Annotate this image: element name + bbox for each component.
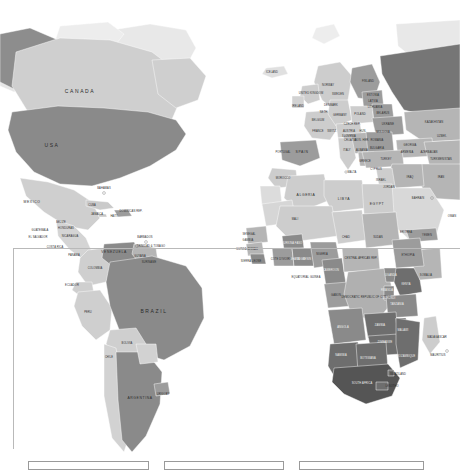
label-el-salvador: EL SALVADOR (29, 235, 48, 239)
label-burundi: BURUNDI (383, 296, 396, 300)
label-lesotho: LESOTHO (385, 384, 398, 388)
label-algeria: ALGERIA (297, 193, 316, 197)
label-cuba: CUBA (88, 203, 96, 207)
label-slovenia: SLOVENIA (342, 134, 356, 138)
label-libya: LIBYA (338, 197, 350, 201)
label-armenia: ARMENIA (401, 150, 414, 154)
label-south-africa: SOUTH AFRICA (352, 381, 373, 385)
label-senegal: SENEGAL (242, 232, 256, 236)
region-chad (332, 210, 366, 244)
label-guyana: GUYANA (134, 254, 146, 258)
label-latvia: LATVIA (368, 99, 378, 103)
label-trinidad-tobago: TRINIDAD & TOBAGO (137, 244, 165, 248)
label-nicaragua: NICARAGUA (62, 234, 79, 238)
label-botswana: BOTSWANA (360, 356, 376, 360)
label-moldova: MOLDOVA (376, 130, 390, 134)
label-barbados: BARBADOS (137, 235, 153, 239)
legend-box-2[interactable] (164, 461, 284, 470)
label-mozambique: MOZAMBIQUE (397, 354, 416, 358)
label-iraq: IRAQ (407, 175, 414, 179)
label-bosnia-herzegovina: BOS. HER. (355, 138, 369, 142)
label-hungary: HUN. (360, 129, 367, 133)
label-ethiopia: ETHIOPIA (401, 253, 414, 257)
label-uzbekistan: UZBEK. (437, 134, 447, 138)
label-azerbaijan: AZERBAIJAN (420, 150, 437, 154)
label-switzerland: SWITZ. (327, 129, 337, 133)
legend-box-1[interactable] (28, 461, 149, 470)
label-haiti: HAITI (110, 214, 117, 218)
label-uruguay: URIGUAY (157, 392, 170, 396)
label-austria: AUSTRIA (343, 129, 355, 133)
label-central-african-rep: CENTRAL AFRICAN REP. (345, 256, 378, 260)
label-sudan: SUDAN (373, 235, 383, 239)
label-belize: BELIZE (56, 220, 66, 224)
label-jamaica: JAMAICA (91, 212, 103, 216)
label-yemen: YEMEN (422, 233, 432, 237)
label-colombia: COLOMBIA (88, 266, 103, 270)
label-norway: NORWAY (322, 83, 334, 87)
label-egypt: EGYPT (370, 202, 385, 206)
label-gambia: GAMBIA (243, 238, 254, 242)
label-bulgaria: BULGARIA (370, 146, 384, 150)
label-albania: ALBANIA (356, 148, 368, 152)
label-spain: SPAIN (296, 150, 309, 154)
region-cameroon (322, 258, 346, 286)
label-iceland: ICELAND (266, 70, 278, 74)
label-cote-divoire: COTE D'IVOIRE (271, 257, 292, 261)
label-romania: ROMANIA (371, 138, 384, 142)
label-iran: IRAN (438, 175, 445, 179)
label-oman: OMAN (448, 214, 456, 218)
label-suriname: SURINAME (142, 260, 157, 264)
label-turkmenistan: TURKMENISTAN (430, 157, 452, 161)
label-malta: MALTA (348, 170, 357, 174)
label-zimbabwe: ZIMBABWE (378, 340, 393, 344)
label-mauritius: MAURITIUS (430, 353, 445, 357)
label-poland: POLAND (354, 112, 365, 116)
label-equatorial-guinea: EQUATORIAL GUINEA (291, 275, 320, 279)
label-netherlands: NETH. (320, 110, 329, 114)
label-mali: MALI (292, 217, 299, 221)
label-ireland: IRELAND (292, 104, 304, 108)
label-morocco: MOROCCO (276, 176, 291, 180)
label-argentina: ARGENTINA (127, 396, 152, 400)
label-madagascar: MADAGASCAR (427, 335, 447, 339)
label-georgia: GEORGIA (404, 143, 417, 147)
label-lithuania: LITHUANIA (368, 105, 383, 109)
label-portugal: PORTUGAL (275, 150, 291, 154)
label-somalia: SOMALIA (420, 273, 433, 277)
label-france: FRANCE (312, 129, 324, 133)
label-jordan: JORDAN (383, 185, 394, 189)
label-peru: PERU (84, 310, 92, 314)
label-burkina-faso: BURKINA FASO (282, 241, 302, 245)
label-kazakhstan: KAZAKHSTAN (425, 120, 443, 124)
region-paraguay (136, 344, 158, 364)
label-sweden: SWEDEN (332, 92, 344, 96)
label-honduras: HONDURAS (58, 226, 74, 230)
label-dominican-rep: DOMINICAN REP. (120, 209, 143, 213)
label-ecuador: ECUADOR (65, 283, 79, 287)
label-belgium: BELGIUM (312, 118, 325, 122)
label-uganda: UGANDA (385, 273, 397, 277)
label-namibia: NAMIBIA (335, 353, 347, 357)
label-germany: GERMANY (333, 113, 347, 117)
region-mozambique (396, 318, 420, 368)
label-benin: BENIN (303, 257, 312, 261)
label-rwanda: RWANDA (381, 288, 393, 292)
label-turkey: TURKEY (380, 157, 391, 161)
label-finland: FINLAND (362, 79, 374, 83)
legend-box-3[interactable] (299, 461, 424, 470)
label-mexico: MEXICO (24, 200, 41, 204)
label-chile: CHILE (105, 355, 113, 359)
label-costa-rica: COSTA RICA (47, 245, 64, 249)
legend-row (0, 461, 460, 469)
label-tanzania: TANZANIA (390, 302, 404, 306)
region-car (342, 248, 380, 272)
label-estonia: ESTONIA (367, 93, 379, 97)
label-bolivia: BOLIVIA (122, 341, 133, 345)
label-israel: ISRAEL (376, 178, 386, 182)
label-panama: PANAMA (68, 253, 80, 257)
label-guinea-bissau: GUINEA-BISSAU (236, 247, 258, 251)
label-denmark: DENMARK (324, 103, 338, 107)
